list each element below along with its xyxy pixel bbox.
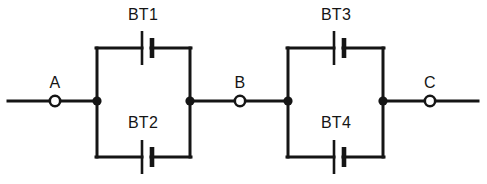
component-labels-group: BT1 BT2 BT3 BT4 xyxy=(128,6,351,131)
component-label-bt3: BT3 xyxy=(321,6,351,23)
component-label-bt4: BT4 xyxy=(321,114,351,131)
component-label-bt2: BT2 xyxy=(128,114,158,131)
right-parallel-loop xyxy=(287,48,384,157)
terminal-node-b[interactable] xyxy=(235,96,245,106)
junction-dot-j1 xyxy=(92,96,101,105)
terminals-group xyxy=(50,96,435,106)
terminal-label-a: A xyxy=(50,74,61,91)
terminal-node-c[interactable] xyxy=(425,96,435,106)
terminal-label-b: B xyxy=(235,74,246,91)
terminal-node-a[interactable] xyxy=(50,96,60,106)
junction-dot-j4 xyxy=(378,96,387,105)
terminal-labels-group: A B C xyxy=(50,74,436,91)
junction-dot-j2 xyxy=(185,96,194,105)
junction-dot-j3 xyxy=(283,96,292,105)
component-label-bt1: BT1 xyxy=(128,6,158,23)
left-parallel-loop xyxy=(96,48,191,157)
terminal-label-c: C xyxy=(424,74,436,91)
circuit-diagram-canvas: A B C BT1 BT2 BT3 BT4 xyxy=(0,0,487,184)
